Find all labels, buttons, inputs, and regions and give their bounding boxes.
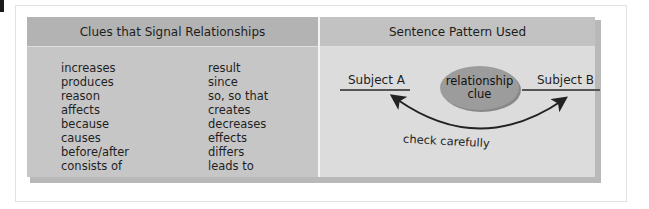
- clue-word: creates: [208, 103, 268, 117]
- clue-word: so, so that: [208, 89, 268, 103]
- clue-word: consists of: [61, 159, 129, 173]
- ellipse-text-line-2: clue: [468, 88, 492, 101]
- clue-word: affects: [61, 103, 129, 117]
- clue-word-list-2: result since so, so that creates decreas…: [208, 61, 268, 173]
- clue-word: result: [208, 61, 268, 75]
- sentence-pattern-diagram: Subject A Subject B: [320, 47, 595, 177]
- clue-word: increases: [61, 61, 129, 75]
- relationship-clues-table: Clues that Signal Relationships increase…: [27, 17, 598, 180]
- relationship-clue-ellipse: relationship clue: [440, 66, 519, 110]
- clue-word: effects: [208, 131, 268, 145]
- clue-word: because: [61, 117, 129, 131]
- check-carefully-arrow-icon: [320, 47, 595, 177]
- corner-marker: [0, 0, 4, 12]
- clue-word: reason: [61, 89, 129, 103]
- clue-word: since: [208, 75, 268, 89]
- clue-word-list-1: increases produces reason affects becaus…: [61, 61, 129, 173]
- clues-header: Clues that Signal Relationships: [27, 17, 318, 47]
- clue-word: before/after: [61, 145, 129, 159]
- clue-word: decreases: [208, 117, 268, 131]
- clue-word: differs: [208, 145, 268, 159]
- clues-body: increases produces reason affects becaus…: [27, 47, 318, 177]
- pattern-column: Sentence Pattern Used Subject A Subject …: [320, 17, 595, 177]
- clue-word: produces: [61, 75, 129, 89]
- clue-word: causes: [61, 131, 129, 145]
- clues-column: Clues that Signal Relationships increase…: [27, 17, 318, 177]
- clue-word: leads to: [208, 159, 268, 173]
- pattern-body: Subject A Subject B: [320, 47, 595, 177]
- pattern-header: Sentence Pattern Used: [320, 17, 595, 47]
